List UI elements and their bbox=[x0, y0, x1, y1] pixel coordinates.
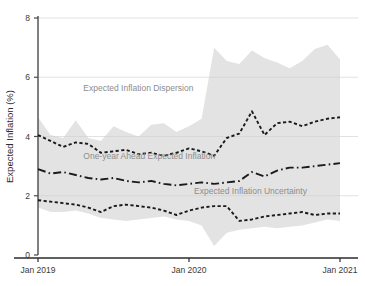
one-year-label: One-year Ahead Expected Inflation bbox=[83, 151, 215, 161]
dispersion-band-area bbox=[38, 45, 340, 246]
expected-inflation-chart: 02468 Jan 2019Jan 2020Jan 2021 Expected … bbox=[0, 0, 365, 286]
y-tick-label-0: 0 bbox=[25, 250, 30, 260]
y-axis-title: Expected Inflation (%) bbox=[4, 90, 15, 183]
x-tick-labels: Jan 2019Jan 2020Jan 2021 bbox=[21, 265, 358, 275]
y-tick-label-6: 6 bbox=[25, 72, 30, 82]
x-tick-label-1: Jan 2020 bbox=[172, 265, 207, 275]
x-tick-label-2: Jan 2021 bbox=[323, 265, 358, 275]
x-tick-label-0: Jan 2019 bbox=[21, 265, 56, 275]
chart-canvas: 02468 Jan 2019Jan 2020Jan 2021 Expected … bbox=[0, 0, 365, 286]
y-tick-labels: 02468 bbox=[25, 13, 30, 260]
y-tick-label-2: 2 bbox=[25, 191, 30, 201]
dispersion-band bbox=[38, 45, 340, 246]
dispersion-label: Expected Inflation Dispersion bbox=[83, 83, 193, 93]
y-axis-title-text: Expected Inflation (%) bbox=[4, 90, 15, 183]
y-tick-label-8: 8 bbox=[25, 13, 30, 23]
y-tick-label-4: 4 bbox=[25, 132, 30, 142]
uncertainty-label: Expected Inflation Uncertainty bbox=[194, 186, 308, 196]
